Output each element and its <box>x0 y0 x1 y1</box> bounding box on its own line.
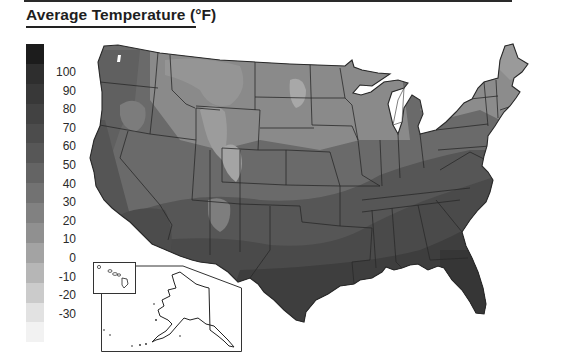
lake-michigan <box>393 88 404 125</box>
temperature-bands <box>80 30 540 330</box>
us-temperature-map <box>0 0 561 356</box>
hawaii-inset <box>94 263 136 294</box>
